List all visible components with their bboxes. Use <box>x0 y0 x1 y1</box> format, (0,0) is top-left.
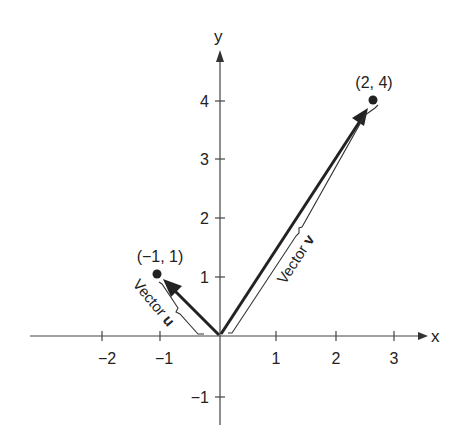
x-tick-label: 3 <box>390 350 399 367</box>
x-tick-label: 2 <box>332 350 341 367</box>
x-tick-label: −2 <box>98 350 116 367</box>
y-tick-label: 4 <box>200 93 209 110</box>
y-tick-label: 2 <box>200 210 209 227</box>
vector-u: (−1, 1) Vector u <box>130 248 219 335</box>
x-tick-label: 1 <box>272 350 281 367</box>
y-axis-arrow-icon <box>216 50 224 62</box>
x-axis-arrow-icon <box>418 332 428 340</box>
vector-diagram: x −2 −1 1 2 3 y 4 3 2 1 −1 (2, 4) Vect <box>0 0 461 441</box>
vector-v: (2, 4) Vector v <box>221 74 393 334</box>
point-u-label: (−1, 1) <box>137 248 184 265</box>
y-axis-label: y <box>214 27 223 46</box>
y-tick-label: 1 <box>200 269 209 286</box>
y-tick-label: −1 <box>191 389 209 406</box>
y-tick-label: 3 <box>200 151 209 168</box>
point-v-label: (2, 4) <box>355 74 392 91</box>
x-axis-label: x <box>431 327 440 346</box>
vector-v-label: Vector v <box>273 231 318 287</box>
x-tick-label: −1 <box>155 350 173 367</box>
vector-v-brace <box>228 105 378 333</box>
x-axis: x −2 −1 1 2 3 <box>30 327 440 367</box>
point-u-dot <box>153 270 162 279</box>
y-axis: y 4 3 2 1 −1 <box>191 27 225 425</box>
point-v-dot <box>369 96 378 105</box>
